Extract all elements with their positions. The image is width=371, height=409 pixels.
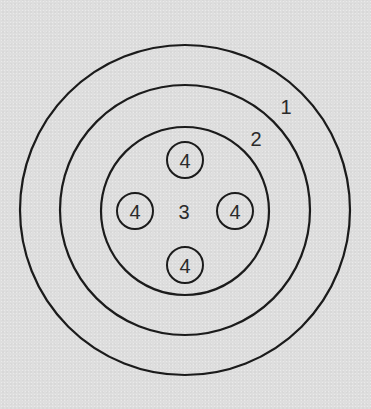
concentric-circles-diagram: 1 2 3 4 4 4 4: [0, 0, 371, 409]
inner-circle-left-label: 4: [129, 201, 140, 223]
ring-1-label: 1: [280, 96, 291, 118]
inner-circle-bottom-label: 4: [179, 255, 190, 277]
inner-circle-top-label: 4: [179, 150, 190, 172]
inner-circle-right-label: 4: [229, 201, 240, 223]
diagram-canvas: 1 2 3 4 4 4 4: [0, 0, 371, 409]
ring-3-label: 3: [178, 201, 189, 223]
ring-2-label: 2: [250, 128, 261, 150]
